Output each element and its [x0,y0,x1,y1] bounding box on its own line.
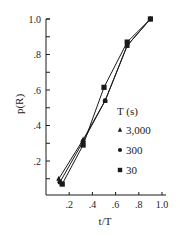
legend: T (s)3,00030030 [117,105,151,176]
y-tick-label: 1.0 [29,14,42,25]
square-marker-icon [60,181,65,186]
y-tick-label: .6 [34,85,42,96]
x-axis-title: t/T [99,215,112,227]
data-series [56,16,153,187]
legend-item: 30 [118,164,138,176]
y-tick-label: .4 [34,120,42,131]
square-marker-icon [81,142,86,147]
x-tick-label: .8 [135,199,143,210]
legend-item: 300 [118,144,143,156]
legend-label: 300 [126,144,143,156]
legend-title: T (s) [117,105,138,118]
square-marker-icon [101,85,106,90]
circle-marker-icon [118,148,122,152]
legend-label: 30 [126,164,138,176]
y-tick-label: .8 [34,49,42,60]
legend-label: 3,000 [126,124,151,136]
x-tick-label: 1.0 [156,199,169,210]
x-tick-label: .4 [89,199,97,210]
circle-marker-icon [103,98,108,103]
triangle-marker-icon [118,127,122,131]
chart: .2.4.6.81.0.2.4.6.81.0 T (s)3,00030030 t… [0,0,180,236]
square-marker-icon [118,168,122,172]
y-tick-label: .2 [34,156,42,167]
y-axis-title: p(R) [13,94,26,115]
square-marker-icon [148,16,153,21]
square-marker-icon [125,39,130,44]
x-tick-label: .2 [65,199,73,210]
legend-item: 3,000 [118,124,151,136]
series-circle [57,17,152,185]
x-tick-label: .6 [112,199,120,210]
